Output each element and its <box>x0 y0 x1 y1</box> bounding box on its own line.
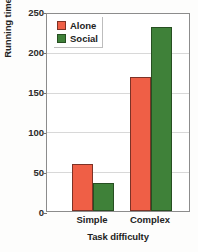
bar-alone-simple <box>72 164 93 211</box>
x-axis-tick-labels: Simple Complex <box>46 214 190 228</box>
legend-item-social: Social <box>57 32 98 45</box>
y-axis-tick-labels: 0 50 100 150 200 250 <box>14 0 44 252</box>
y-tick-label-100: 100 <box>18 128 44 138</box>
legend-item-alone: Alone <box>57 19 98 32</box>
y-tick-label-150: 150 <box>18 88 44 98</box>
y-tick-label-50: 50 <box>18 168 44 178</box>
x-axis-title: Task difficulty <box>46 231 190 242</box>
legend: Alone Social <box>54 17 103 48</box>
y-tick-label-0: 0 <box>18 208 44 218</box>
legend-swatch-icon-social <box>57 34 66 43</box>
y-tick-label-200: 200 <box>18 48 44 58</box>
y-tick-label-250: 250 <box>18 8 44 18</box>
x-tick-label-complex: Complex <box>114 214 186 225</box>
legend-swatch-icon-alone <box>57 21 66 30</box>
bar-alone-complex <box>130 77 151 211</box>
legend-label-social: Social <box>70 33 98 44</box>
bar-social-simple <box>93 183 114 211</box>
legend-label-alone: Alone <box>70 20 96 31</box>
bar-chart: Running time 0 50 100 150 200 250 Alone <box>0 0 198 252</box>
bar-social-complex <box>151 27 172 211</box>
